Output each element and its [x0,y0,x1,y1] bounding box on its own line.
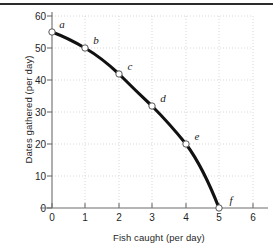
point-label-e: e [195,130,200,142]
data-point-d[interactable] [149,103,155,109]
point-label-f: f [229,194,232,206]
y-axis-ticks [47,16,52,208]
chart-figure: Dates gathered (per day) Fish caught (pe… [0,0,273,250]
plot-area [0,0,273,250]
data-point-markers [49,29,222,211]
point-label-d: d [160,92,166,104]
data-point-b[interactable] [82,45,88,51]
point-label-a: a [59,18,65,30]
data-point-c[interactable] [116,71,122,77]
data-point-f[interactable] [216,205,222,211]
ppf-curve [52,32,219,208]
data-point-a[interactable] [49,29,55,35]
point-label-c: c [128,60,133,72]
point-label-b: b [93,34,99,46]
data-point-e[interactable] [183,141,189,147]
x-axis-ticks [52,203,253,208]
